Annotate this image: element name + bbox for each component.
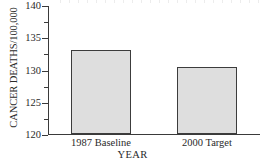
y-tick-mark [42,6,48,7]
y-axis-title: CANCER DEATHS/100,000 [8,4,19,132]
y-tick-label: 125 [25,98,41,109]
bar-1987-baseline [71,50,131,134]
y-tick-label: 130 [25,65,41,76]
scan-artifact [60,0,260,3]
y-tick-mark [42,103,48,104]
y-minor-tick [44,87,48,88]
y-minor-tick [44,54,48,55]
x-axis-line [48,134,260,135]
plot-area: 120125130135140 [48,6,260,135]
y-tick-mark [42,135,48,136]
y-tick-label: 140 [25,1,41,12]
y-tick-label: 120 [25,130,41,141]
y-minor-tick [44,22,48,23]
bar-2000-target [177,67,237,134]
x-category-label: 1987 Baseline [41,137,161,148]
y-tick-mark [42,71,48,72]
y-tick-mark [42,38,48,39]
y-axis-line [48,6,49,135]
x-category-label: 2000 Target [147,137,265,148]
x-axis-title: YEAR [0,149,265,160]
bar-chart: CANCER DEATHS/100,000 120125130135140 19… [0,0,265,163]
y-tick-label: 135 [25,33,41,44]
y-minor-tick [44,119,48,120]
